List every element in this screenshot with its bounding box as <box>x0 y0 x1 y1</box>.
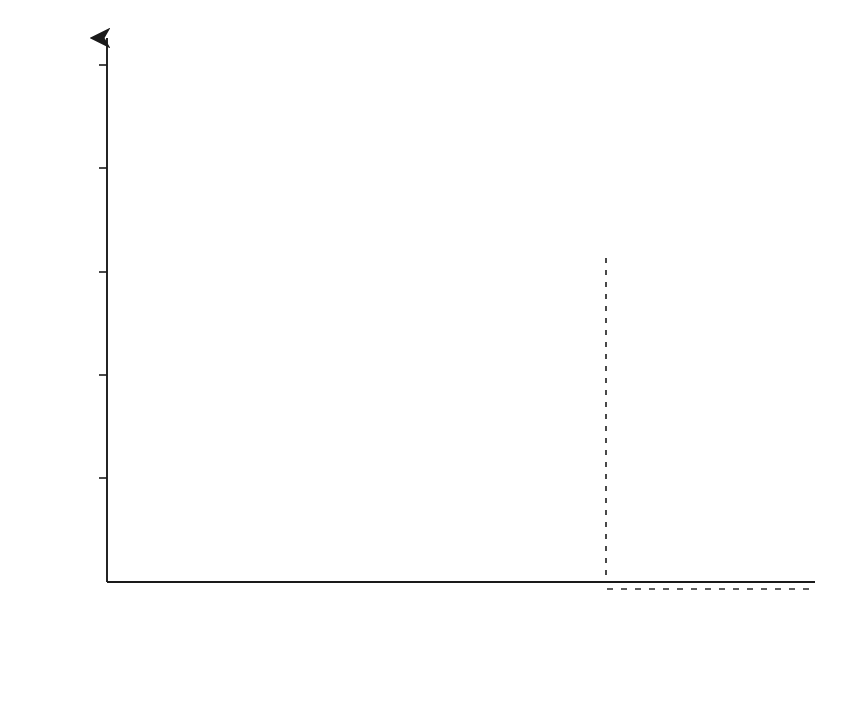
chart-figure <box>0 0 853 727</box>
weights-bar-chart <box>0 0 853 727</box>
chart-background <box>0 0 853 727</box>
